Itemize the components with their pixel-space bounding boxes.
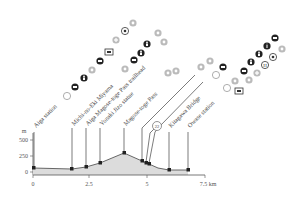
y-unit-label: m (22, 128, 27, 134)
marker-kitagawa-bridge (168, 168, 172, 172)
elevation-profile-area (33, 153, 188, 175)
y-tick-0: 0 (25, 169, 28, 175)
marker-a (141, 159, 145, 163)
x-tick-0: 0 (32, 181, 35, 187)
sign-icon (219, 63, 226, 70)
light-icon (154, 29, 161, 36)
sign-icon (129, 19, 136, 26)
svg-text:22: 22 (155, 124, 160, 129)
y-tick-500: 500 (19, 137, 28, 143)
restroom-icon (130, 56, 137, 63)
marker-aiga-station (32, 166, 36, 170)
light-icon (197, 63, 204, 70)
star-icon (269, 53, 276, 60)
marker-trailhead (85, 165, 89, 169)
light-icon (164, 69, 171, 76)
sign-icon (278, 45, 285, 52)
marker-yonaki-jizo (99, 161, 103, 165)
marker-michi-no-eki (70, 167, 74, 171)
marker-owase-station (187, 168, 191, 172)
person-icon (80, 74, 87, 81)
icons-magose-pass (164, 67, 179, 76)
circle-outline-icon (63, 92, 70, 99)
sign-icon (172, 67, 179, 74)
marker-magose-pass (123, 151, 127, 155)
person-icon (137, 49, 144, 56)
person-icon (247, 58, 254, 65)
marker-b (145, 161, 149, 165)
light-icon (88, 66, 95, 73)
route-22-badge: 22 (153, 122, 162, 131)
bento-icon (96, 57, 103, 64)
sign-icon (206, 57, 213, 64)
ticket-icon (105, 49, 113, 55)
sign-icon (231, 77, 238, 84)
sign-icon (160, 38, 167, 45)
x-tick-5: 5 (146, 181, 149, 187)
plus-icon (112, 36, 119, 43)
info-icon (263, 42, 270, 49)
ticket-icon (235, 88, 243, 94)
icons-row-22 (197, 57, 213, 70)
y-axis: m 500 250 0 (19, 128, 33, 175)
bento-icon (271, 34, 278, 41)
x-tick-7-5: 7.5 km (200, 181, 217, 187)
h-icon (261, 61, 268, 68)
y-tick-250: 250 (19, 153, 28, 159)
elevation-profile-diagram: m 500 250 0 0 2.5 5 7.5 km (0, 0, 306, 201)
x-axis: 0 2.5 5 7.5 km (32, 175, 217, 187)
person-icon (143, 40, 150, 47)
label-kitagawa-bridge: Kitagawa Bridge (167, 94, 202, 129)
restroom-icon (240, 67, 247, 74)
light-icon (245, 76, 252, 83)
icons-kitagawa (212, 63, 226, 78)
sign-icon (121, 65, 128, 72)
star-icon (121, 27, 128, 34)
circle-outline-icon (223, 84, 230, 91)
restroom-icon (71, 83, 78, 90)
label-aiga-station: Aiga station (32, 102, 58, 128)
icons-owase-station (223, 45, 285, 94)
marker-c (148, 162, 152, 166)
x-tick-2-5: 2.5 (85, 181, 93, 187)
circle-outline-icon (212, 71, 219, 78)
person-icon (255, 50, 262, 57)
plus-icon (253, 69, 260, 76)
icons-michi-no-eki (121, 29, 167, 72)
